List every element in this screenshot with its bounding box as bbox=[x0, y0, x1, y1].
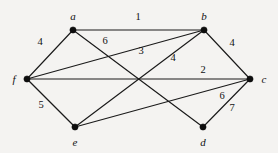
edge-weight-e-c: 6 bbox=[219, 91, 224, 102]
vertex-d bbox=[200, 124, 206, 130]
vertex-label-e: e bbox=[73, 137, 78, 148]
edge-f-b bbox=[27, 30, 204, 79]
vertex-label-a: a bbox=[70, 11, 76, 22]
edge-f-a bbox=[27, 30, 73, 79]
edge-weight-f-a: 4 bbox=[37, 37, 42, 48]
vertex-e bbox=[72, 124, 78, 130]
edge-weight-b-e: 4 bbox=[170, 53, 175, 64]
vertex-label-b: b bbox=[201, 11, 207, 22]
vertex-a bbox=[70, 27, 76, 33]
edge-weight-f-e: 5 bbox=[38, 100, 43, 111]
graph-canvas bbox=[0, 0, 278, 153]
vertex-f bbox=[24, 76, 30, 82]
vertex-label-d: d bbox=[200, 137, 206, 148]
edge-f-e bbox=[27, 79, 75, 127]
edge-weight-a-b: 1 bbox=[135, 12, 140, 23]
edge-weight-f-b: 3 bbox=[138, 46, 143, 57]
vertex-b bbox=[201, 27, 207, 33]
edge-weight-f-c: 2 bbox=[200, 65, 205, 76]
edge-weight-a-d: 6 bbox=[102, 36, 107, 47]
vertex-label-f: f bbox=[12, 74, 15, 85]
edge-e-c bbox=[75, 79, 250, 127]
edge-c-d bbox=[203, 79, 250, 127]
edge-weight-b-c: 4 bbox=[229, 38, 234, 49]
graph-figure: 1463442567 abcdef bbox=[0, 0, 278, 153]
edge-b-c bbox=[204, 30, 250, 79]
vertex-c bbox=[247, 76, 253, 82]
vertex-label-c: c bbox=[262, 74, 267, 85]
edge-weight-c-d: 7 bbox=[229, 103, 234, 114]
